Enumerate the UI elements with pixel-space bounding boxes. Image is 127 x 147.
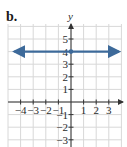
y-axis-label: y [67,10,73,22]
y-tick-label: 2 [63,71,69,83]
x-tick-label: 1 [81,104,87,116]
x-tick-label: −3 [27,104,39,116]
y-tick-label: 3 [63,58,69,70]
point-y-intercept [69,49,74,54]
x-tick-label: −4 [15,104,27,116]
y-tick-label: −2 [56,121,68,133]
y-tick-label: −1 [56,109,68,121]
x-tick-label: 3 [106,104,112,116]
y-tick-label: −3 [56,134,68,146]
x-tick-label: 2 [93,104,99,116]
y-tick-label: 5 [63,33,69,45]
y-tick-label: 1 [63,83,69,95]
x-tick-label: −2 [40,104,52,116]
coordinate-plane: y−4−3−2−112354321−1−2−3 [0,0,127,147]
